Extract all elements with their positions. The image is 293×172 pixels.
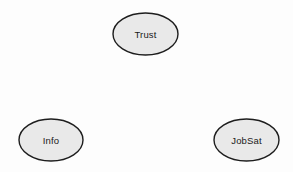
node-trust[interactable]: Trust: [113, 13, 178, 55]
node-info[interactable]: Info: [19, 119, 83, 161]
jobsat-label: JobSat: [231, 135, 262, 146]
diagram-canvas: Trust Info JobSat: [0, 0, 293, 172]
trust-label: Trust: [134, 29, 156, 40]
path-diagram: Trust Info JobSat: [0, 0, 293, 172]
info-label: Info: [43, 135, 59, 146]
node-jobsat[interactable]: JobSat: [214, 119, 279, 161]
